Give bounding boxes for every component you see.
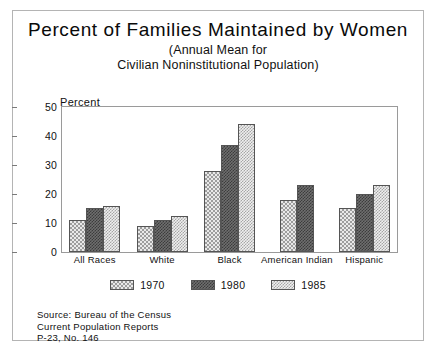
y-tick-mark: [12, 252, 17, 253]
chart-legend: 197019801985: [13, 279, 423, 291]
bar-group: [204, 107, 255, 252]
y-tick-mark: [12, 136, 17, 137]
y-tick-label: 40: [17, 130, 57, 142]
y-tick-mark: [12, 194, 17, 195]
bar-group: [339, 107, 390, 252]
x-tick-label: Black: [217, 254, 241, 265]
bar-1970: [137, 226, 154, 252]
legend-swatch-1970: [110, 280, 134, 290]
bar-1980: [297, 185, 314, 252]
y-tick-label: 50: [17, 101, 57, 113]
bar-1985: [103, 206, 120, 252]
bar-1970: [69, 220, 86, 252]
bar-1980: [356, 194, 373, 252]
bar-1985: [373, 185, 390, 252]
plot-area: 01020304050 All RacesWhiteBlackAmerican …: [61, 106, 398, 253]
x-tick-label: All Races: [74, 254, 116, 265]
source-line-3: P-23, No. 146: [37, 332, 171, 344]
x-tick-label: American Indian: [261, 254, 333, 265]
bar-1970: [339, 208, 356, 252]
bar-group: [69, 107, 120, 252]
y-tick-label: 30: [17, 159, 57, 171]
legend-label: 1970: [140, 279, 165, 291]
legend-item: 1970: [110, 279, 165, 291]
title-block: Percent of Families Maintained by Women …: [13, 19, 423, 72]
bar-group: [280, 107, 314, 252]
legend-item: 1985: [271, 279, 326, 291]
chart-figure: Percent of Families Maintained by Women …: [12, 10, 424, 341]
x-tick-label: White: [149, 254, 174, 265]
bar-1970: [204, 171, 221, 252]
y-tick-mark: [12, 165, 17, 166]
x-tick-label: Hispanic: [345, 254, 383, 265]
bar-1970: [280, 200, 297, 252]
bar-group: [137, 107, 188, 252]
y-tick-mark: [12, 107, 17, 108]
y-tick-label: 0: [17, 246, 57, 258]
subtitle-line-1: (Annual Mean for: [13, 43, 423, 58]
subtitle-line-2: Civilian Noninstitutional Population): [13, 58, 423, 73]
legend-swatch-1980: [191, 280, 215, 290]
bar-1985: [238, 124, 255, 252]
legend-item: 1980: [191, 279, 246, 291]
legend-swatch-1985: [271, 280, 295, 290]
legend-label: 1980: [221, 279, 246, 291]
y-tick-label: 10: [17, 217, 57, 229]
bar-1985: [171, 216, 188, 252]
page-title: Percent of Families Maintained by Women: [13, 19, 423, 41]
legend-label: 1985: [301, 279, 326, 291]
source-note: Source: Bureau of the Census Current Pop…: [37, 309, 171, 344]
y-tick-label: 20: [17, 188, 57, 200]
source-line-1: Source: Bureau of the Census: [37, 309, 171, 321]
bar-1980: [154, 220, 171, 252]
y-tick-mark: [12, 223, 17, 224]
bar-1980: [86, 208, 103, 252]
source-line-2: Current Population Reports: [37, 321, 171, 333]
bar-1980: [221, 145, 238, 252]
